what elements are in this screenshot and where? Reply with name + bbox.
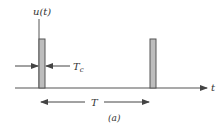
- pulse-width-label: Tc: [73, 61, 84, 74]
- pulse-width-label-sub: c: [80, 66, 84, 74]
- period-label: T: [91, 97, 99, 108]
- y-axis-label: u(t): [33, 6, 51, 17]
- x-axis-label: t: [211, 82, 216, 93]
- pulse-1: [39, 39, 45, 88]
- figure-caption: (a): [108, 113, 121, 123]
- pulse-train-diagram: u(t) t Tc T (a): [0, 0, 223, 126]
- pulse-2: [150, 39, 156, 88]
